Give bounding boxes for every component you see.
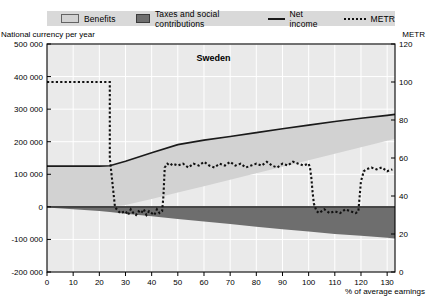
- y-tick-label-left: -100 000: [11, 235, 43, 244]
- x-tick-label: 50: [173, 278, 182, 287]
- x-tick-label: 10: [69, 278, 78, 287]
- y-tick-label-right: 60: [399, 154, 408, 163]
- y-tick-label-left: 500 000: [14, 40, 43, 49]
- legend-label-benefits: Benefits: [84, 14, 116, 24]
- y-axis-title-left: National currency per year: [1, 30, 95, 39]
- x-tick-label: 130: [380, 278, 394, 287]
- x-tick-label: 120: [354, 278, 368, 287]
- y-tick-label-right: 20: [399, 230, 408, 239]
- x-tick-label: 70: [226, 278, 235, 287]
- legend-item-benefits: Benefits: [61, 14, 116, 24]
- x-tick-label: 20: [95, 278, 104, 287]
- y-tick-label-right: 0: [399, 268, 404, 277]
- y-tick-label-left: 400 000: [14, 73, 43, 82]
- legend-item-net-income: Net income: [268, 9, 324, 29]
- y-tick-label-left: 0: [39, 203, 44, 212]
- x-tick-label: 40: [147, 278, 156, 287]
- benefits-swatch-icon: [61, 14, 79, 23]
- x-axis-title: % of average earnings: [345, 287, 425, 296]
- y-tick-label-right: 100: [399, 78, 413, 87]
- x-tick-label: 90: [278, 278, 287, 287]
- y-axis-title-right: METR: [402, 30, 425, 39]
- x-tick-label: 0: [45, 278, 50, 287]
- legend-label-net-income: Net income: [290, 9, 324, 29]
- x-tick-label: 80: [252, 278, 261, 287]
- country-annotation: Sweden: [0, 53, 427, 63]
- legend-label-taxes: Taxes and social contributions: [155, 9, 246, 29]
- x-tick-label: 30: [121, 278, 130, 287]
- x-tick-label: 60: [200, 278, 209, 287]
- y-tick-label-left: 200 000: [14, 138, 43, 147]
- y-tick-label-left: -200 000: [11, 268, 43, 277]
- y-tick-label-right: 80: [399, 116, 408, 125]
- legend-label-metr: METR: [371, 14, 395, 24]
- legend-item-taxes: Taxes and social contributions: [136, 9, 246, 29]
- legend-item-metr: METR: [344, 14, 395, 24]
- y-tick-label-left: 300 000: [14, 105, 43, 114]
- y-tick-label-right: 40: [399, 192, 408, 201]
- chart-plot: 500 000400 000300 000200 000100 0000-100…: [0, 0, 427, 301]
- x-tick-label: 110: [328, 278, 341, 287]
- y-tick-label-left: 100 000: [14, 170, 43, 179]
- dotted-line-icon: [344, 18, 366, 20]
- taxes-swatch-icon: [136, 14, 150, 23]
- chart-legend: Benefits Taxes and social contributions …: [47, 11, 395, 26]
- solid-line-icon: [268, 18, 285, 20]
- chart-container: Benefits Taxes and social contributions …: [0, 0, 427, 301]
- y-tick-label-right: 120: [399, 40, 413, 49]
- x-tick-label: 100: [302, 278, 316, 287]
